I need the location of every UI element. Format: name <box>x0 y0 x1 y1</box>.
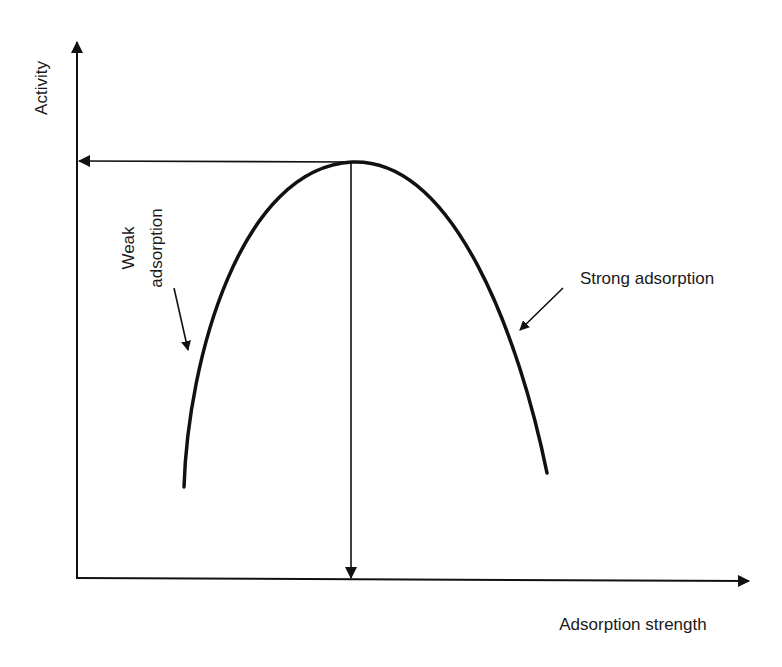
diagram-svg: Activity Adsorption strength Weak adsorp… <box>0 0 782 667</box>
x-axis <box>76 578 749 581</box>
weak-adsorption-arrow <box>174 288 188 350</box>
activity-curve <box>184 162 547 487</box>
strong-adsorption-arrow <box>520 288 563 330</box>
weak-adsorption-label-line1: Weak <box>119 226 138 270</box>
y-axis-label: Activity <box>32 61 51 115</box>
strong-adsorption-label: Strong adsorption <box>580 269 714 288</box>
max-activity-arrow <box>79 161 352 162</box>
x-axis-label: Adsorption strength <box>559 615 706 634</box>
volcano-diagram: Activity Adsorption strength Weak adsorp… <box>0 0 782 667</box>
weak-adsorption-label-line2: adsorption <box>147 208 166 287</box>
